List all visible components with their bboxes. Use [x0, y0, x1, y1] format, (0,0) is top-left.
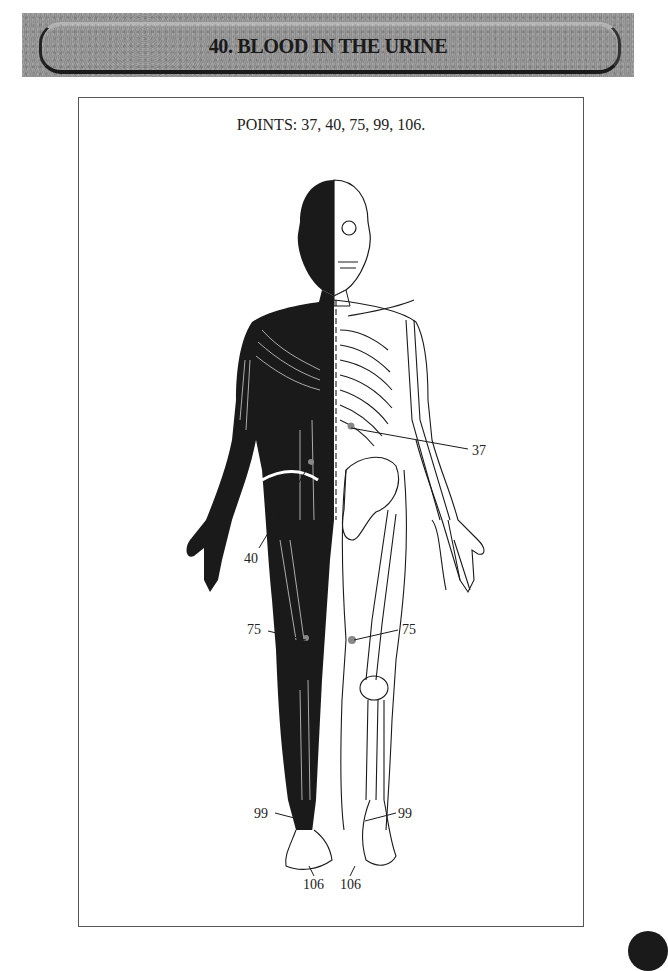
label-point-106-right: 106 [340, 877, 361, 892]
label-point-40: 40 [244, 551, 258, 566]
label-point-99-right: 99 [398, 806, 412, 821]
label-point-75-right: 75 [402, 622, 416, 637]
muscle-half [187, 300, 334, 832]
page-corner-mark [628, 931, 668, 971]
head [298, 180, 371, 296]
label-point-37: 37 [472, 443, 486, 458]
label-point-99-left: 99 [254, 806, 268, 821]
label-point-106-left: 106 [303, 877, 324, 892]
label-point-75-left: 75 [247, 622, 261, 637]
skeleton-half [334, 300, 484, 865]
